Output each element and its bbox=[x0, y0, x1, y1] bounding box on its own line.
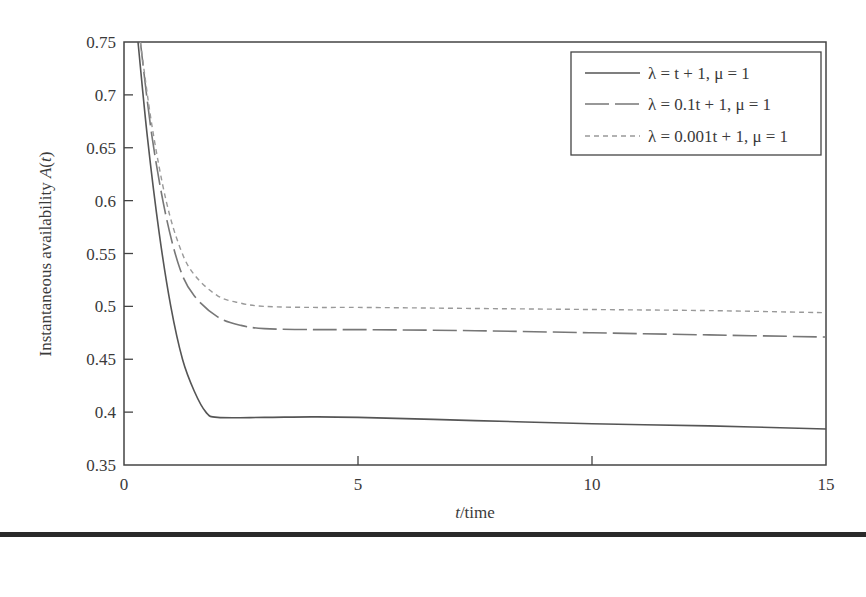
x-axis-label: t/time bbox=[455, 503, 495, 522]
line-chart: 0.350.40.450.50.550.60.650.70.75 051015 … bbox=[0, 0, 866, 597]
x-tick-label: 5 bbox=[354, 475, 363, 494]
x-tick-label: 15 bbox=[818, 475, 835, 494]
y-tick-label: 0.45 bbox=[86, 350, 116, 369]
y-axis: 0.350.40.450.50.550.60.650.70.75 bbox=[86, 33, 133, 475]
legend-label: λ = 0.001t + 1, μ = 1 bbox=[648, 127, 788, 146]
y-tick-label: 0.6 bbox=[95, 192, 116, 211]
x-axis: 051015 bbox=[120, 456, 835, 494]
y-tick-label: 0.65 bbox=[86, 139, 116, 158]
page-divider bbox=[0, 532, 866, 537]
legend-label: λ = t + 1, μ = 1 bbox=[648, 64, 750, 83]
legend-label: λ = 0.1t + 1, μ = 1 bbox=[648, 95, 771, 114]
y-tick-label: 0.4 bbox=[95, 403, 117, 422]
x-tick-label: 0 bbox=[120, 475, 129, 494]
y-axis-label: Instantaneous availability A(t) bbox=[36, 152, 55, 357]
y-tick-label: 0.5 bbox=[95, 297, 116, 316]
x-tick-label: 10 bbox=[584, 475, 601, 494]
legend: λ = t + 1, μ = 1 λ = 0.1t + 1, μ = 1 λ =… bbox=[571, 52, 821, 155]
y-tick-label: 0.55 bbox=[86, 245, 116, 264]
y-tick-label: 0.35 bbox=[86, 456, 116, 475]
y-tick-label: 0.75 bbox=[86, 33, 116, 52]
y-tick-label: 0.7 bbox=[95, 86, 117, 105]
